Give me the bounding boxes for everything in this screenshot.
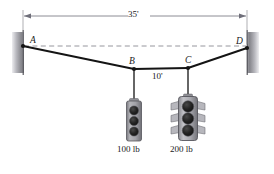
- load-label-100lb: 100 lb: [117, 145, 140, 154]
- traffic-signal-small: [127, 99, 142, 142]
- lamp-middle-large: [182, 113, 193, 124]
- cable-segment-ab: [23, 46, 134, 69]
- right-wall: [247, 30, 259, 75]
- lamp-top-large: [182, 101, 193, 112]
- point-label-a: A: [30, 36, 36, 46]
- cable-segment-cd: [188, 48, 247, 68]
- lamp-bottom-large: [182, 125, 193, 136]
- joint-a: [21, 44, 25, 48]
- left-wall: [12, 30, 24, 75]
- traffic-signal-large: [171, 94, 205, 141]
- diagram-canvas: A B C D 35' 10' 100 lb 200 lb: [0, 0, 274, 174]
- lamp-middle-small: [130, 117, 139, 126]
- point-label-c: C: [185, 56, 191, 66]
- point-label-b: B: [129, 57, 135, 67]
- dimension-label-10ft: 10': [152, 72, 163, 81]
- point-label-d: D: [236, 37, 243, 47]
- cable-abcd: [23, 46, 247, 69]
- lamp-bottom-small: [130, 127, 139, 136]
- load-label-200lb: 200 lb: [170, 145, 193, 154]
- dimension-label-35ft: 35': [128, 10, 139, 19]
- cable-segment-bc: [134, 68, 188, 69]
- lamp-top-small: [130, 106, 139, 115]
- joint-d: [245, 46, 249, 50]
